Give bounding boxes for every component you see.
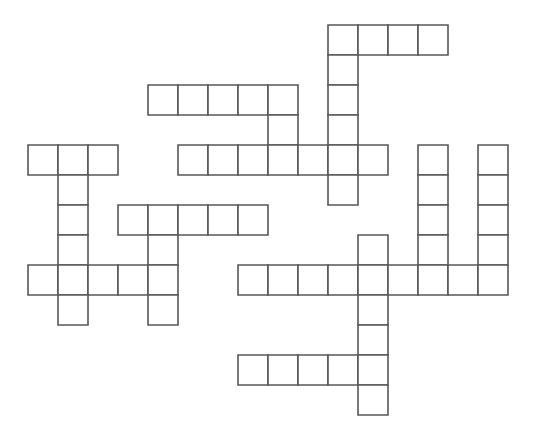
- crossword-cell[interactable]: [328, 85, 358, 115]
- crossword-cell[interactable]: [418, 145, 448, 175]
- crossword-cell[interactable]: [58, 205, 88, 235]
- crossword-cell[interactable]: [238, 265, 268, 295]
- crossword-cell[interactable]: [58, 175, 88, 205]
- crossword-cell[interactable]: [418, 175, 448, 205]
- crossword-cell[interactable]: [358, 235, 388, 265]
- crossword-cell[interactable]: [118, 205, 148, 235]
- crossword-cell[interactable]: [58, 265, 88, 295]
- crossword-cell[interactable]: [148, 205, 178, 235]
- crossword-cell[interactable]: [358, 325, 388, 355]
- crossword-cell[interactable]: [58, 145, 88, 175]
- crossword-cell[interactable]: [88, 265, 118, 295]
- crossword-cell[interactable]: [208, 205, 238, 235]
- crossword-cell[interactable]: [238, 145, 268, 175]
- crossword-cell[interactable]: [178, 145, 208, 175]
- crossword-cell[interactable]: [328, 175, 358, 205]
- crossword-cell[interactable]: [268, 145, 298, 175]
- crossword-cell[interactable]: [358, 145, 388, 175]
- crossword-cell[interactable]: [328, 25, 358, 55]
- crossword-cell[interactable]: [268, 265, 298, 295]
- crossword-cell[interactable]: [418, 235, 448, 265]
- crossword-cell[interactable]: [358, 265, 388, 295]
- crossword-cell[interactable]: [28, 265, 58, 295]
- crossword-cell[interactable]: [448, 265, 478, 295]
- crossword-cell[interactable]: [358, 25, 388, 55]
- crossword-cell[interactable]: [358, 355, 388, 385]
- crossword-cell[interactable]: [88, 145, 118, 175]
- crossword-cell[interactable]: [478, 235, 508, 265]
- crossword-cell[interactable]: [58, 235, 88, 265]
- crossword-cell[interactable]: [268, 115, 298, 145]
- crossword-cell[interactable]: [148, 295, 178, 325]
- crossword-cell[interactable]: [298, 145, 328, 175]
- crossword-cell[interactable]: [478, 205, 508, 235]
- crossword-cell[interactable]: [418, 205, 448, 235]
- crossword-cell[interactable]: [178, 85, 208, 115]
- crossword-cell[interactable]: [208, 85, 238, 115]
- crossword-cell[interactable]: [328, 265, 358, 295]
- crossword-puzzle-grid: Blank crossword puzzle grid Empty interl…: [0, 0, 542, 430]
- crossword-cell[interactable]: [238, 205, 268, 235]
- crossword-cell[interactable]: [58, 295, 88, 325]
- crossword-cell[interactable]: [178, 205, 208, 235]
- crossword-cell[interactable]: [268, 355, 298, 385]
- crossword-cell[interactable]: [148, 85, 178, 115]
- crossword-cell[interactable]: [478, 175, 508, 205]
- crossword-cell[interactable]: [328, 145, 358, 175]
- crossword-cell[interactable]: [478, 265, 508, 295]
- crossword-cell[interactable]: [298, 355, 328, 385]
- crossword-cell[interactable]: [328, 55, 358, 85]
- crossword-cell[interactable]: [238, 355, 268, 385]
- crossword-cell[interactable]: [388, 265, 418, 295]
- crossword-cell[interactable]: [148, 265, 178, 295]
- crossword-cell[interactable]: [418, 25, 448, 55]
- crossword-cell[interactable]: [358, 385, 388, 415]
- crossword-cell[interactable]: [358, 295, 388, 325]
- crossword-cell[interactable]: [118, 265, 148, 295]
- crossword-cell[interactable]: [388, 25, 418, 55]
- crossword-cell[interactable]: [328, 115, 358, 145]
- crossword-cell[interactable]: [418, 265, 448, 295]
- crossword-cell[interactable]: [328, 355, 358, 385]
- crossword-cell[interactable]: [208, 145, 238, 175]
- crossword-grid-canvas: [0, 0, 542, 430]
- crossword-cell[interactable]: [148, 235, 178, 265]
- crossword-cell[interactable]: [238, 85, 268, 115]
- crossword-cell[interactable]: [268, 85, 298, 115]
- crossword-cell[interactable]: [478, 145, 508, 175]
- crossword-cell[interactable]: [298, 265, 328, 295]
- crossword-cell[interactable]: [28, 145, 58, 175]
